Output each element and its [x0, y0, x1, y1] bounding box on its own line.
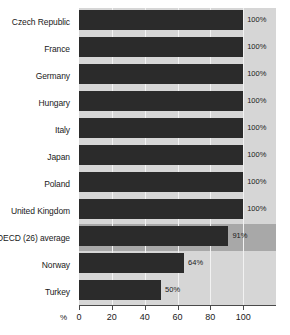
- bar-value-label: 100%: [243, 172, 266, 192]
- bar: [79, 226, 228, 246]
- category-label: Germany: [0, 62, 74, 89]
- x-axis-tick: [210, 306, 211, 310]
- bar: [79, 199, 243, 219]
- bar: [79, 172, 243, 192]
- x-axis-tick-label: 20: [107, 312, 117, 322]
- bar: [79, 280, 161, 300]
- category-label: United Kingdom: [0, 197, 74, 224]
- bar: [79, 64, 243, 84]
- x-axis-tick-label: 100: [236, 312, 251, 322]
- category-label: OECD (26) average: [0, 224, 74, 251]
- category-label: Poland: [0, 170, 74, 197]
- bar-value-label: 100%: [243, 10, 266, 30]
- bar-value-label: 100%: [243, 118, 266, 138]
- plot-area: 100%100%100%100%100%100%100%100%91%64%50…: [79, 8, 276, 305]
- bar-value-label: 50%: [161, 280, 180, 300]
- category-label: Norway: [0, 251, 74, 278]
- bar: [79, 253, 184, 273]
- bar-value-label: 64%: [184, 253, 203, 273]
- x-axis-tick-label: 60: [172, 312, 182, 322]
- x-axis-tick-label: 80: [205, 312, 215, 322]
- bar: [79, 37, 243, 57]
- bar: [79, 91, 243, 111]
- x-axis-tick: [178, 306, 179, 310]
- category-label: Italy: [0, 116, 74, 143]
- bar: [79, 118, 243, 138]
- bar-value-label: 100%: [243, 145, 266, 165]
- x-axis-tick: [112, 306, 113, 310]
- category-label: France: [0, 35, 74, 62]
- category-label: Czech Republic: [0, 8, 74, 35]
- x-axis-tick-label: 0: [76, 312, 81, 322]
- bar-chart: Czech RepublicFranceGermanyHungaryItalyJ…: [0, 0, 290, 335]
- category-label: Turkey: [0, 278, 74, 305]
- bar-value-label: 100%: [243, 37, 266, 57]
- category-label-column: Czech RepublicFranceGermanyHungaryItalyJ…: [0, 8, 74, 305]
- x-axis-tick: [243, 306, 244, 310]
- x-axis-tick-label: 40: [140, 312, 150, 322]
- bar-value-label: 100%: [243, 91, 266, 111]
- x-axis-tick: [79, 306, 80, 310]
- x-axis-unit-label: %: [60, 313, 67, 322]
- category-label: Hungary: [0, 89, 74, 116]
- bar: [79, 145, 243, 165]
- bar: [79, 10, 243, 30]
- bar-value-label: 91%: [228, 226, 247, 246]
- bar-value-label: 100%: [243, 199, 266, 219]
- bar-value-label: 100%: [243, 64, 266, 84]
- x-axis-tick: [145, 306, 146, 310]
- category-label: Japan: [0, 143, 74, 170]
